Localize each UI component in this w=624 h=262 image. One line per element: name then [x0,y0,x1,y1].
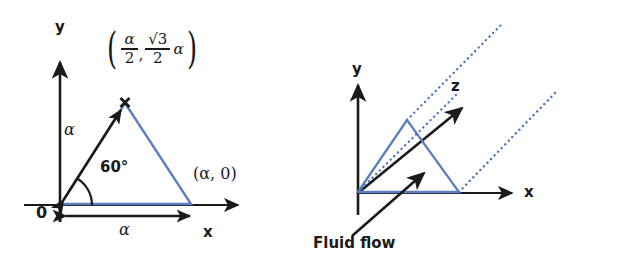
extrusion-dotted-edge-from-apex [407,25,501,120]
right-z-axis [358,108,462,193]
figure-container: y x 0 60° α α (α, 0) ( α 2 , √3 2 α ) y … [0,0,624,262]
extrusion-dotted-edge-from-origin [358,95,456,192]
coordinate-y-numerator: √3 [145,32,170,48]
left-panel-graphics [24,62,238,222]
fluid-flow-label: Fluid flow [313,236,395,251]
fluid-flow-arrow [352,173,424,236]
figure-vector-canvas [0,0,624,262]
side-length-label: α [64,122,75,138]
coordinate-comma: , [139,46,144,66]
extrusion-dotted-edge-from-base-vertex [459,92,556,192]
base-vertex-coordinate-label: (α, 0) [193,166,237,182]
apex-coordinate-label: ( α 2 , √3 2 α ) [104,32,200,66]
left-y-axis-label: y [55,20,65,35]
angle-arc-60 [77,179,92,206]
right-y-axis-label: y [352,62,362,77]
right-panel-graphics [352,25,556,236]
coordinate-x-numerator: α [121,32,137,48]
equilateral-triangle [61,103,191,204]
coordinate-close-paren: ) [187,32,197,66]
coordinate-x-fraction: α 2 [121,32,137,66]
coordinate-x-denominator: 2 [122,50,138,66]
right-x-axis-label: x [524,185,534,200]
left-origin-label: 0 [36,205,47,221]
coordinate-y-fraction: √3 2 [145,32,170,66]
left-x-axis-label: x [203,225,213,240]
coordinate-y-denominator: 2 [150,50,166,66]
base-length-label: α [119,222,130,238]
angle-60-label: 60° [100,160,128,175]
right-z-axis-label: z [451,79,460,94]
coordinate-open-paren: ( [107,32,117,66]
apex-marker-cross [121,98,130,107]
coordinate-y-trailing-alpha: α [173,40,183,58]
